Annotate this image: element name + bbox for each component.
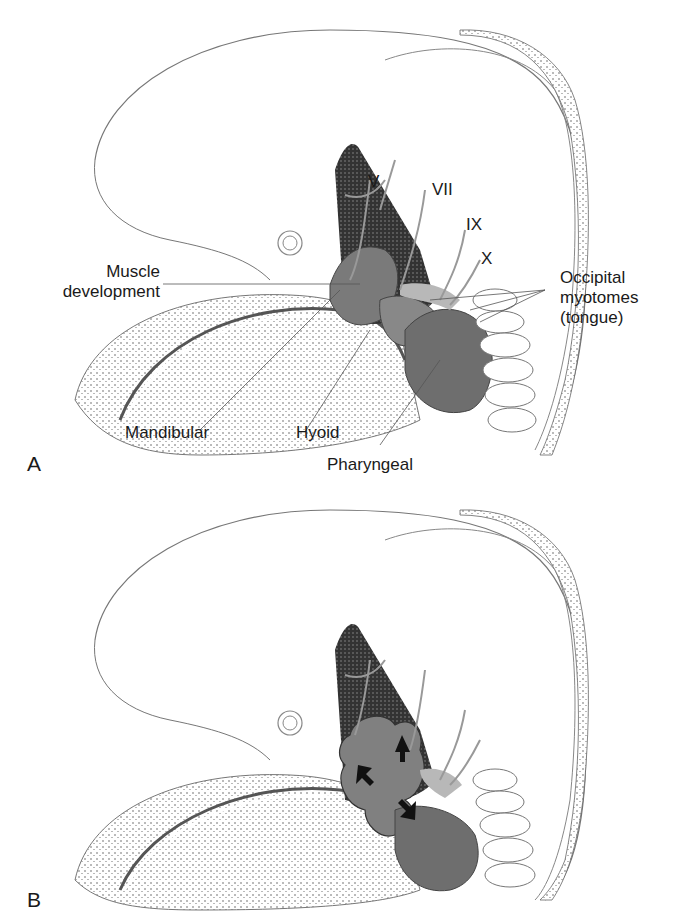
label-occipital-line3: (tongue): [560, 308, 638, 328]
panel-a: V VII IX X Muscle development Occipital …: [0, 0, 682, 480]
panel-letter-a: A: [27, 453, 41, 475]
panel-letter-b: B: [27, 889, 41, 911]
label-occipital-line1: Occipital: [560, 268, 638, 288]
label-pharyngeal: Pharyngeal: [327, 455, 413, 475]
label-occipital-myotomes: Occipital myotomes (tongue): [560, 268, 638, 328]
label-mandibular: Mandibular: [125, 423, 209, 443]
label-occipital-line2: myotomes: [560, 288, 638, 308]
label-muscle-development-line2: development: [40, 282, 160, 302]
label-hyoid: Hyoid: [296, 423, 339, 443]
nerve-label-v: V: [368, 173, 379, 191]
label-muscle-development-line1: Muscle: [40, 262, 160, 282]
embryo-illustration-b: [0, 480, 682, 915]
nerve-label-vii: VII: [432, 181, 453, 199]
label-muscle-development: Muscle development: [40, 262, 160, 302]
nerve-label-x: X: [481, 250, 492, 268]
embryo-illustration-a: [0, 0, 682, 480]
nerve-label-ix: IX: [466, 216, 482, 234]
panel-b: B: [0, 480, 682, 915]
